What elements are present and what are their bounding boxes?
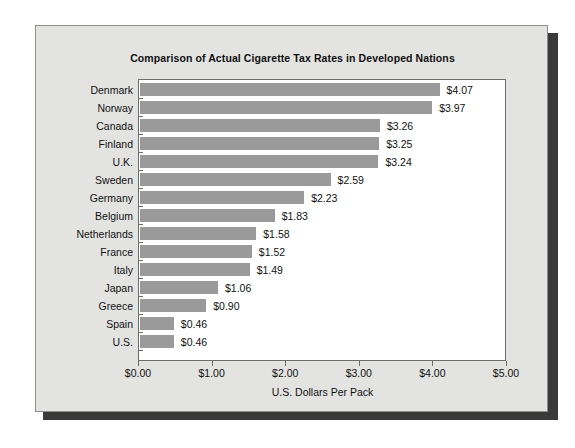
y-axis-tick <box>139 332 143 333</box>
bar <box>140 119 380 132</box>
bar <box>140 173 331 186</box>
bar <box>140 263 250 276</box>
bar <box>140 299 206 312</box>
chart-card: Comparison of Actual Cigarette Tax Rates… <box>35 25 548 412</box>
bar <box>140 317 174 330</box>
y-axis-tick <box>139 206 143 207</box>
category-label: Italy <box>114 261 133 279</box>
bar <box>140 83 440 96</box>
bar <box>140 101 432 114</box>
card-drop-shadow-bottom <box>43 412 558 420</box>
category-label: Sweden <box>95 171 133 189</box>
x-axis-tick-label: $1.00 <box>198 367 224 379</box>
x-axis-tick-label: $4.00 <box>419 367 445 379</box>
bar <box>140 245 252 258</box>
bar-value-label: $1.06 <box>225 279 251 297</box>
y-axis-tick <box>139 242 143 243</box>
bar-value-label: $1.83 <box>282 207 308 225</box>
category-label: Japan <box>104 279 133 297</box>
category-label: Norway <box>97 99 133 117</box>
category-label: Germany <box>90 189 133 207</box>
y-axis-tick <box>139 134 143 135</box>
bar <box>140 335 174 348</box>
bar <box>140 227 256 240</box>
bar <box>140 137 379 150</box>
bar <box>140 209 275 222</box>
category-label: France <box>100 243 133 261</box>
bar <box>140 191 304 204</box>
bar-value-label: $0.90 <box>213 297 239 315</box>
y-axis-tick <box>139 314 143 315</box>
x-axis-tick-label: $5.00 <box>493 367 519 379</box>
category-label: Canada <box>96 117 133 135</box>
y-axis-tick <box>139 296 143 297</box>
y-axis-tick <box>139 260 143 261</box>
bar-value-label: $3.97 <box>439 99 465 117</box>
x-axis-tick <box>432 361 433 366</box>
bar-value-label: $4.07 <box>447 81 473 99</box>
x-axis-tick-label: $3.00 <box>346 367 372 379</box>
y-axis-tick <box>139 116 143 117</box>
bar-value-label: $0.46 <box>181 333 207 351</box>
y-axis-tick <box>139 350 143 351</box>
plot-area: Denmark$4.07Norway$3.97Canada$3.26Finlan… <box>138 79 506 361</box>
card-drop-shadow-right <box>548 33 558 420</box>
bar-value-label: $2.59 <box>338 171 364 189</box>
x-axis-tick <box>285 361 286 366</box>
y-axis-tick <box>139 98 143 99</box>
category-label: Belgium <box>95 207 133 225</box>
chart-title: Comparison of Actual Cigarette Tax Rates… <box>36 52 549 64</box>
category-label: Finland <box>99 135 133 153</box>
bar-value-label: $1.58 <box>263 225 289 243</box>
y-axis-tick <box>139 278 143 279</box>
x-axis-tick <box>359 361 360 366</box>
x-axis-title: U.S. Dollars Per Pack <box>138 386 507 398</box>
bar-value-label: $3.26 <box>387 117 413 135</box>
y-axis-tick <box>139 152 143 153</box>
x-axis-tick <box>212 361 213 366</box>
y-axis-tick <box>139 170 143 171</box>
category-label: Denmark <box>90 81 133 99</box>
category-label: Spain <box>106 315 133 333</box>
x-axis-tick-label: $0.00 <box>125 367 151 379</box>
y-axis-tick <box>139 188 143 189</box>
category-label: Netherlands <box>76 225 133 243</box>
bar <box>140 281 218 294</box>
bar-value-label: $0.46 <box>181 315 207 333</box>
bar-value-label: $3.25 <box>386 135 412 153</box>
x-axis-tick-label: $2.00 <box>272 367 298 379</box>
category-label: U.S. <box>113 333 133 351</box>
x-axis-tick <box>138 361 139 366</box>
category-label: U.K. <box>113 153 133 171</box>
category-label: Greece <box>99 297 133 315</box>
x-axis-tick <box>506 361 507 366</box>
bar-value-label: $2.23 <box>311 189 337 207</box>
y-axis-tick <box>139 224 143 225</box>
bar-value-label: $3.24 <box>385 153 411 171</box>
x-axis-tick-labels: $0.00$1.00$2.00$3.00$4.00$5.00 <box>138 367 507 381</box>
bar-value-label: $1.49 <box>257 261 283 279</box>
bar <box>140 155 378 168</box>
bar-value-label: $1.52 <box>259 243 285 261</box>
